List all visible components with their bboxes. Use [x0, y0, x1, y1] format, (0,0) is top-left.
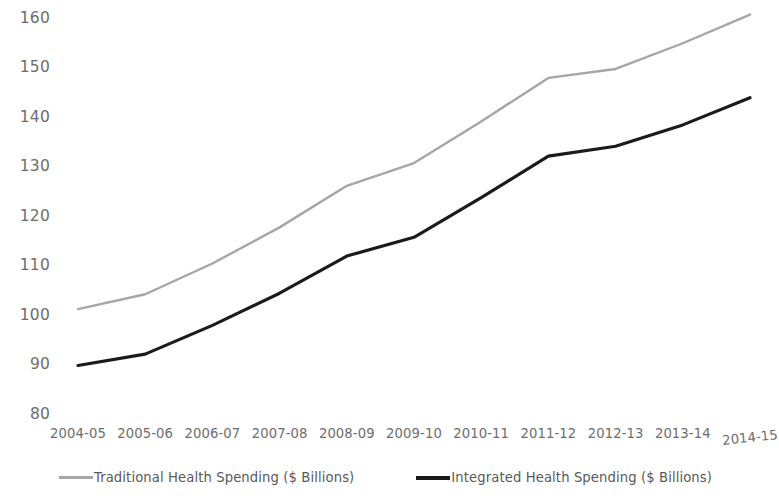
x-axis-tick-2004-05: 2004-05	[50, 426, 106, 441]
legend-line-swatch-icon	[416, 476, 450, 480]
chart-legend: Traditional Health Spending ($ Billions)…	[0, 470, 771, 485]
x-axis-tick-2007-08: 2007-08	[252, 426, 308, 441]
x-axis-tick-2012-13: 2012-13	[588, 426, 644, 441]
legend-line-swatch-icon	[59, 476, 93, 479]
series-line-traditional	[78, 15, 750, 310]
legend-item-label: Traditional Health Spending ($ Billions)	[94, 470, 354, 485]
x-axis-tick-2005-06: 2005-06	[117, 426, 173, 441]
legend-item-integrated[interactable]: Integrated Health Spending ($ Billions)	[416, 470, 712, 485]
series-line-integrated	[78, 98, 750, 366]
x-axis-tick-2011-12: 2011-12	[520, 426, 576, 441]
legend-item-label: Integrated Health Spending ($ Billions)	[451, 470, 712, 485]
x-axis-tick-2010-11: 2010-11	[453, 426, 509, 441]
x-axis-tick-2006-07: 2006-07	[184, 426, 240, 441]
legend-item-traditional[interactable]: Traditional Health Spending ($ Billions)	[59, 470, 354, 485]
x-axis-tick-2008-09: 2008-09	[319, 426, 375, 441]
x-axis-tick-2009-10: 2009-10	[386, 426, 442, 441]
x-axis-tick-2013-14: 2013-14	[655, 426, 711, 441]
